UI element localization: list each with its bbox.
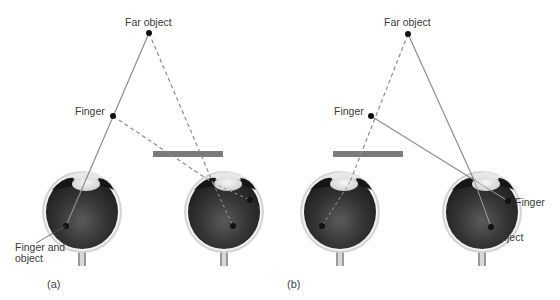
retina-dot-right-finger	[505, 198, 511, 204]
label-retina-object-b: Object	[493, 232, 523, 243]
occluder-bar	[153, 151, 223, 157]
panel-label-b: (b)	[287, 279, 300, 290]
sightline-finger-right-eye	[113, 116, 213, 183]
sightline-far-object-right-eye	[408, 34, 474, 180]
retina-dot-left	[319, 223, 325, 229]
sightline-finger-right-eye	[371, 116, 474, 180]
retina-dot-right-object	[488, 224, 494, 230]
retina-dot-right-object	[230, 223, 236, 229]
retina-dot-right-finger	[247, 197, 253, 203]
binocular-vision-diagram	[0, 0, 560, 300]
label-far-object-b: Far object	[384, 17, 431, 28]
label-retina-finger-b: Finger	[515, 197, 545, 208]
label-far-object-a: Far object	[125, 17, 172, 28]
right-eye	[184, 171, 264, 266]
panel-b	[300, 31, 522, 266]
panel-a	[36, 30, 264, 266]
occluder-bar	[333, 151, 403, 157]
left-eye	[300, 171, 380, 266]
label-finger-and-object-line2: object	[15, 253, 43, 264]
finger-point	[368, 113, 374, 119]
sightline-far-object-right-eye	[149, 33, 213, 183]
far-object-point	[405, 31, 411, 37]
panel-label-a: (a)	[47, 279, 60, 290]
finger-point	[110, 113, 116, 119]
label-finger-a: Finger	[75, 106, 105, 117]
far-object-point	[146, 30, 152, 36]
label-finger-b: Finger	[334, 106, 364, 117]
